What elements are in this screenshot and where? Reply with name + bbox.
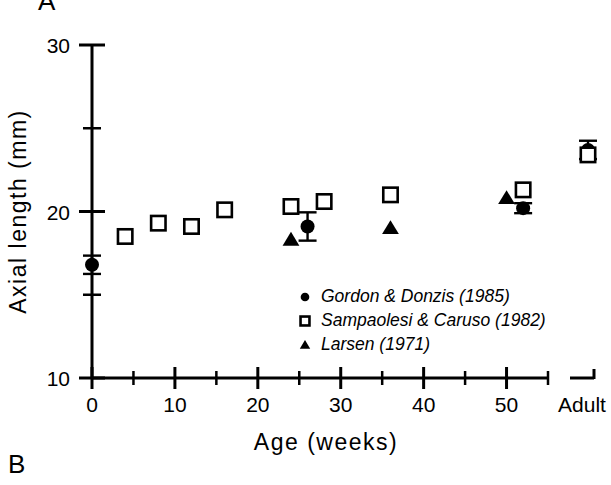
x-ticklabel-adult: Adult	[558, 393, 606, 416]
data-point-open-square-52	[516, 183, 530, 197]
data-point-filled-circle-26	[301, 219, 315, 233]
x-ticklabel-0: 0	[86, 393, 98, 416]
x-ticklabel-50: 50	[495, 393, 518, 416]
legend-label-2: Sampaolesi & Caruso (1982)	[321, 310, 546, 330]
legend-label-3: Larsen (1971)	[321, 334, 430, 354]
y-ticklabel-10: 10	[47, 367, 70, 390]
data-point-filled-circle-0	[85, 258, 99, 272]
y-ticklabel-20: 20	[47, 201, 70, 224]
x-ticklabel-20: 20	[246, 393, 269, 416]
x-ticklabel-40: 40	[412, 393, 435, 416]
figure-canvas: A B 10203001020304050AdultAge (weeks)Axi…	[0, 0, 611, 485]
legend-marker-filled-triangle	[300, 340, 310, 349]
y-axis-title: Axial length (mm)	[5, 109, 31, 313]
legend-marker-filled-circle	[301, 293, 310, 302]
y-ticklabel-30: 30	[47, 34, 70, 57]
data-point-open-square-16	[217, 203, 231, 217]
data-point-open-square-12	[184, 219, 198, 233]
data-point-filled-triangle-36	[382, 220, 399, 234]
scatter-chart: 10203001020304050AdultAge (weeks)Axial l…	[0, 0, 611, 485]
legend-label-1: Gordon & Donzis (1985)	[321, 286, 510, 306]
data-point-filled-circle-52	[516, 201, 530, 215]
x-ticklabel-30: 30	[329, 393, 352, 416]
series-2	[118, 148, 595, 244]
data-point-open-square-28	[317, 194, 331, 208]
legend-item-2: Sampaolesi & Caruso (1982)	[301, 310, 546, 330]
x-axis-title: Age (weeks)	[254, 429, 398, 455]
data-point-open-square-24	[284, 199, 298, 213]
x-ticklabel-10: 10	[163, 393, 186, 416]
data-point-open-square-8	[151, 216, 165, 230]
legend-marker-open-square	[301, 317, 310, 326]
data-point-filled-triangle-24	[283, 232, 300, 246]
data-point-open-square-36	[383, 188, 397, 202]
legend-item-1: Gordon & Donzis (1985)	[301, 286, 510, 306]
data-point-open-square-Adult	[581, 148, 595, 162]
data-point-open-square-4	[118, 229, 132, 243]
series-1	[83, 141, 597, 274]
data-point-filled-triangle-50	[498, 190, 515, 204]
legend-item-3: Larsen (1971)	[300, 334, 430, 354]
